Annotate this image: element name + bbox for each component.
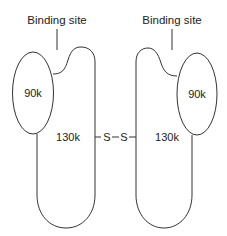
left-subunit: Binding site 90k 130k [13,14,96,228]
dimer-diagram: Binding site 90k 130k S S Binding site 9… [0,0,227,236]
sulfur-left: S [103,131,110,143]
right-130k-label: 130k [155,131,179,143]
left-130k-label: 130k [56,131,80,143]
disulfide-bond: S S [95,131,136,143]
sulfur-right: S [120,131,127,143]
right-subunit: Binding site 90k 130k [136,14,217,228]
right-binding-site-label: Binding site [142,14,201,26]
left-binding-site-label: Binding site [27,14,86,26]
right-90k-label: 90k [188,88,206,100]
left-90k-label: 90k [24,87,42,99]
